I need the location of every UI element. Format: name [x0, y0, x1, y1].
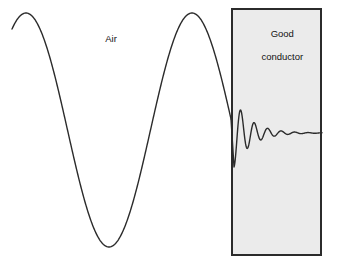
air-region-label: Air [78, 22, 134, 56]
air-label-text: Air [105, 33, 117, 44]
conductor-label-line2: conductor [261, 51, 303, 62]
good-conductor-region-label: Good conductor [240, 17, 314, 73]
figure-root: Air Good conductor [0, 0, 337, 269]
conductor-label-line1: Good [271, 28, 294, 39]
